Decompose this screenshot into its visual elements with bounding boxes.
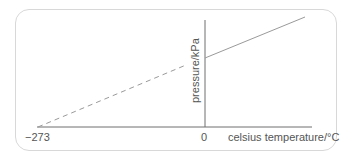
x-axis-label: celsius temperature/°C: [228, 131, 339, 143]
x-tick-minus-273: −273: [25, 131, 50, 143]
extrapolated-dashed-line: [38, 65, 186, 127]
x-tick-zero: 0: [201, 131, 207, 143]
measured-line: [205, 17, 305, 58]
y-axis-label: pressure/kPa: [189, 38, 201, 103]
